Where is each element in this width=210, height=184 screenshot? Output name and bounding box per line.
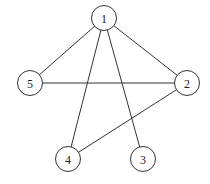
node-label: 1 [101,12,107,26]
node-label: 5 [27,77,33,91]
edge-1-4 [68,18,104,159]
node-label: 4 [65,153,71,167]
edges-layer [30,18,187,159]
edge-1-2 [104,18,187,83]
node-label: 2 [184,77,190,91]
nodes-layer: 12345 [18,6,200,172]
node-label: 3 [140,153,146,167]
edge-1-5 [30,18,104,83]
graph-diagram: 12345 [0,0,210,184]
edge-2-4 [68,83,187,159]
node-2: 2 [175,71,200,96]
edge-1-3 [104,18,143,159]
node-1: 1 [92,6,117,31]
node-3: 3 [131,147,156,172]
node-4: 4 [56,147,81,172]
node-5: 5 [18,71,43,96]
